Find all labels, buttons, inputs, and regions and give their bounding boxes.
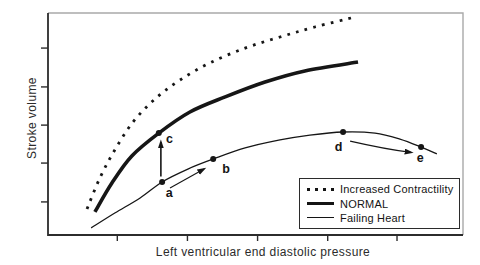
point-b [210,156,216,162]
legend-label-normal: NORMAL [340,198,388,210]
arrow-d-to-e [350,141,411,152]
thin-line-swatch [307,217,334,218]
point-c [156,130,162,136]
arrow-a-to-b [170,169,204,188]
legend-label-increased-contractility: Increased Contractility [340,183,453,195]
point-label-d: d [335,140,343,154]
legend-label-failing-heart: Failing Heart [340,212,405,224]
legend-item-failing-heart: Failing Heart [307,212,457,224]
x-axis-label: Left ventricular end diastolic pressure [156,245,370,259]
point-e [418,144,424,150]
point-label-e: e [417,151,424,165]
point-d [340,129,346,135]
dotted-line-swatch [307,188,334,191]
starling-curve-figure: abcde Stroke volume Left ventricular end… [0,0,480,265]
legend-item-increased-contractility: Increased Contractility [307,183,457,195]
legend: Increased Contractility NORMAL Failing H… [299,178,460,229]
y-axis-label: Stroke volume [25,77,39,159]
thick-line-swatch [307,202,334,206]
point-label-b: b [222,162,230,176]
point-label-c: c [166,132,173,146]
legend-item-normal: NORMAL [307,198,457,210]
point-a [159,179,165,185]
point-label-a: a [166,186,174,200]
